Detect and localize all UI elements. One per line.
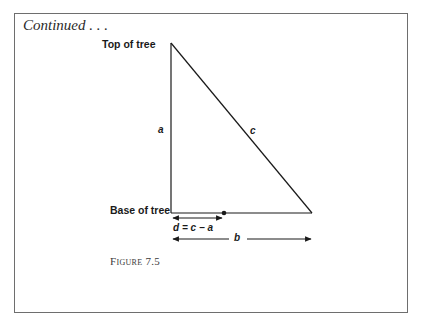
measurement-dot xyxy=(222,211,227,216)
figure-caption: Figure 7.5 xyxy=(110,255,160,267)
hypotenuse-c-label: c xyxy=(250,125,256,136)
side-a-label: a xyxy=(158,124,164,135)
base-of-tree-label: Base of tree xyxy=(110,204,170,216)
d-formula-label: d = c − a xyxy=(173,222,213,233)
b-label: b xyxy=(234,232,240,243)
top-of-tree-label: Top of tree xyxy=(102,38,155,50)
right-triangle xyxy=(171,43,312,213)
